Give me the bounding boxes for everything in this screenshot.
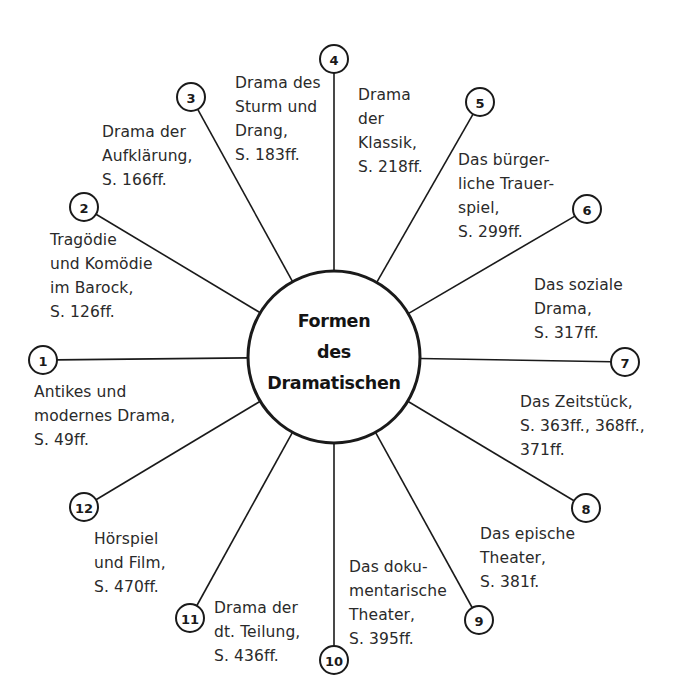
node-label-7: Das sozialeDrama,S. 317ff. bbox=[534, 273, 623, 345]
node-label-line: S. 218ff. bbox=[358, 155, 423, 179]
node-2: 2 bbox=[70, 193, 98, 221]
node-label-line: Das soziale bbox=[534, 273, 623, 297]
node-label-line: Antikes und bbox=[34, 380, 175, 404]
node-number-1: 1 bbox=[38, 354, 47, 369]
node-label-line: S. 299ff. bbox=[458, 220, 554, 244]
node-label-line: Drama, bbox=[534, 297, 623, 321]
center-title-line-1: Formen bbox=[248, 306, 420, 337]
spoke-line-7 bbox=[420, 358, 611, 361]
node-9: 9 bbox=[465, 606, 493, 634]
node-label-line: Drama des bbox=[235, 71, 321, 95]
node-number-5: 5 bbox=[475, 96, 484, 111]
spoke-line-1 bbox=[57, 358, 248, 360]
node-11: 11 bbox=[176, 604, 204, 632]
node-label-12: Hörspielund Film,S. 470ff. bbox=[94, 527, 166, 599]
node-label-line: Das Zeitstück, bbox=[520, 390, 645, 414]
node-label-line: Hörspiel bbox=[94, 527, 166, 551]
node-label-line: im Barock, bbox=[50, 276, 153, 300]
node-label-line: S. 49ff. bbox=[34, 428, 175, 452]
node-label-2: Tragödieund Komödieim Barock,S. 126ff. bbox=[50, 228, 153, 324]
node-1: 1 bbox=[29, 346, 57, 374]
node-number-12: 12 bbox=[75, 501, 93, 516]
node-label-6: Das bürger-liche Trauer-spiel,S. 299ff. bbox=[458, 148, 554, 244]
node-label-line: 371ff. bbox=[520, 438, 645, 462]
center-title: Formen des Dramatischen bbox=[248, 306, 420, 399]
node-label-line: dt. Teilung, bbox=[214, 620, 300, 644]
node-7: 7 bbox=[611, 348, 639, 376]
node-label-8: Das Zeitstück,S. 363ff., 368ff.,371ff. bbox=[520, 390, 645, 462]
node-3: 3 bbox=[177, 83, 205, 111]
node-label-line: spiel, bbox=[458, 196, 554, 220]
node-label-4: Drama desSturm undDrang,S. 183ff. bbox=[235, 71, 321, 167]
node-label-line: Das epische bbox=[480, 522, 575, 546]
node-label-line: Drama bbox=[358, 83, 423, 107]
node-5: 5 bbox=[466, 88, 494, 116]
node-number-8: 8 bbox=[581, 502, 590, 517]
node-number-6: 6 bbox=[582, 203, 591, 218]
node-label-line: Klassik, bbox=[358, 131, 423, 155]
node-label-line: und Komödie bbox=[50, 252, 153, 276]
node-number-11: 11 bbox=[181, 612, 199, 627]
node-label-11: Drama derdt. Teilung,S. 436ff. bbox=[214, 596, 300, 668]
node-number-9: 9 bbox=[474, 614, 483, 629]
node-label-line: Aufklärung, bbox=[102, 144, 193, 168]
node-10: 10 bbox=[320, 646, 348, 674]
node-label-line: und Film, bbox=[94, 551, 166, 575]
node-label-line: S. 381f. bbox=[480, 570, 575, 594]
node-label-line: mentarische bbox=[349, 579, 447, 603]
node-label-line: Das bürger- bbox=[458, 148, 554, 172]
node-label-line: S. 126ff. bbox=[50, 300, 153, 324]
node-8: 8 bbox=[572, 494, 600, 522]
node-label-line: S. 183ff. bbox=[235, 143, 321, 167]
node-number-4: 4 bbox=[329, 53, 338, 68]
node-label-line: Drama der bbox=[214, 596, 300, 620]
node-label-1: Antikes undmodernes Drama,S. 49ff. bbox=[34, 380, 175, 452]
node-number-3: 3 bbox=[186, 91, 195, 106]
node-label-line: S. 317ff. bbox=[534, 321, 623, 345]
node-label-5: DramaderKlassik,S. 218ff. bbox=[358, 83, 423, 179]
node-label-line: S. 363ff., 368ff., bbox=[520, 414, 645, 438]
node-label-line: S. 395ff. bbox=[349, 627, 447, 651]
node-label-line: S. 166ff. bbox=[102, 168, 193, 192]
node-4: 4 bbox=[320, 45, 348, 73]
node-label-line: S. 470ff. bbox=[94, 575, 166, 599]
node-number-10: 10 bbox=[325, 654, 343, 669]
node-6: 6 bbox=[573, 195, 601, 223]
node-label-10: Das doku-mentarischeTheater,S. 395ff. bbox=[349, 555, 447, 651]
node-12: 12 bbox=[70, 493, 98, 521]
node-label-line: Drang, bbox=[235, 119, 321, 143]
node-label-line: Theater, bbox=[349, 603, 447, 627]
node-label-9: Das epischeTheater,S. 381f. bbox=[480, 522, 575, 594]
node-label-line: Das doku- bbox=[349, 555, 447, 579]
node-label-line: Theater, bbox=[480, 546, 575, 570]
node-number-7: 7 bbox=[620, 356, 629, 371]
node-label-line: liche Trauer- bbox=[458, 172, 554, 196]
node-label-line: modernes Drama, bbox=[34, 404, 175, 428]
node-label-line: S. 436ff. bbox=[214, 644, 300, 668]
node-label-line: der bbox=[358, 107, 423, 131]
node-label-3: Drama derAufklärung,S. 166ff. bbox=[102, 120, 193, 192]
node-label-line: Sturm und bbox=[235, 95, 321, 119]
center-title-line-3: Dramatischen bbox=[248, 368, 420, 399]
node-label-line: Tragödie bbox=[50, 228, 153, 252]
center-title-line-2: des bbox=[248, 337, 420, 368]
node-label-line: Drama der bbox=[102, 120, 193, 144]
node-number-2: 2 bbox=[79, 201, 88, 216]
spoke-line-11 bbox=[197, 432, 293, 605]
